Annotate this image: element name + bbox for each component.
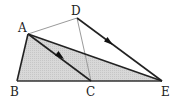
label-c: C [86, 85, 95, 99]
label-d: D [71, 4, 81, 18]
label-e: E [161, 85, 170, 99]
segment-ad [28, 18, 77, 34]
label-b: B [10, 85, 19, 99]
geometry-diagram: A D B C E [0, 0, 180, 102]
label-a: A [17, 21, 27, 35]
